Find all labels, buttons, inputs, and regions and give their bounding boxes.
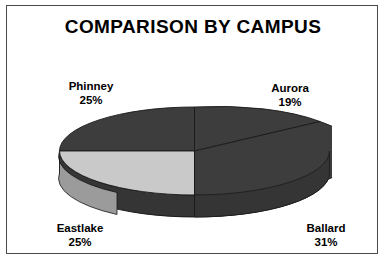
pie-chart <box>7 6 379 255</box>
slice-label-eastlake-name: Eastlake <box>57 222 104 234</box>
slice-label-phinney-name: Phinney <box>69 80 114 92</box>
slice-label-eastlake: Eastlake 25% <box>45 222 115 249</box>
slice-label-ballard: Ballard 31% <box>295 222 357 249</box>
slice-label-phinney: Phinney 25% <box>59 80 123 107</box>
slice-label-aurora-name: Aurora <box>271 82 309 94</box>
slice-label-aurora-percent: 19% <box>259 96 321 110</box>
slice-label-ballard-percent: 31% <box>295 236 357 250</box>
pie-slice-phinney <box>60 107 195 151</box>
slice-label-eastlake-percent: 25% <box>45 236 115 250</box>
screenshot-root: COMPARISON BY CAMPUS <box>0 0 384 263</box>
slice-label-aurora: Aurora 19% <box>259 82 321 109</box>
pie-chart-svg <box>57 106 332 221</box>
slice-label-ballard-name: Ballard <box>307 222 346 234</box>
chart-frame: COMPARISON BY CAMPUS <box>6 5 378 254</box>
slice-label-phinney-percent: 25% <box>59 94 123 108</box>
